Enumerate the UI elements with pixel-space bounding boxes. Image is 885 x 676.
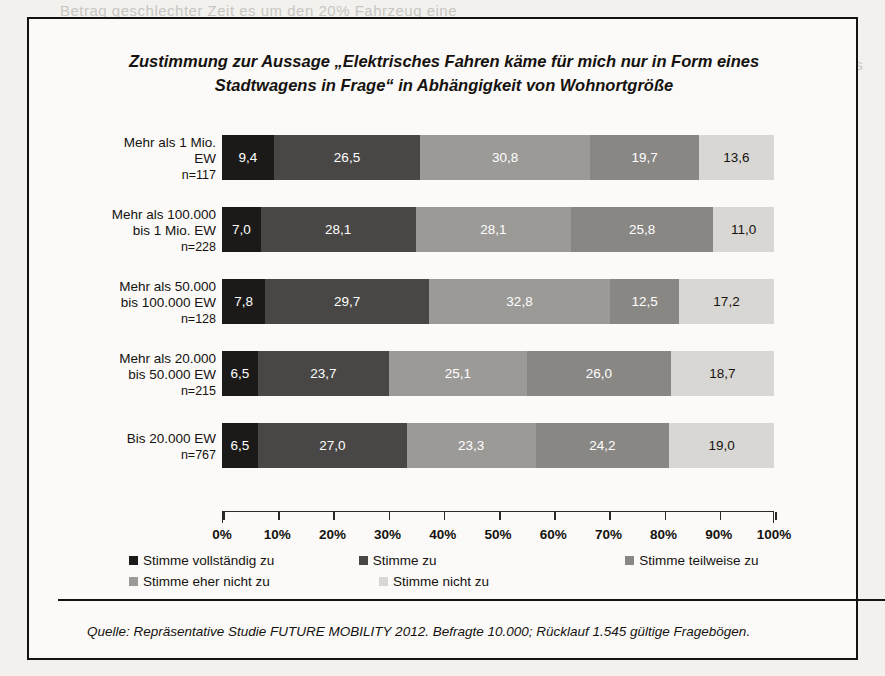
x-axis-tick <box>665 512 667 520</box>
stacked-bar[interactable]: 7,028,128,125,811,0 <box>222 207 774 252</box>
bar-segment[interactable]: 6,5 <box>222 423 258 468</box>
legend-item[interactable]: Stimme eher nicht zu <box>129 574 379 589</box>
bar-segment[interactable]: 26,5 <box>274 135 420 180</box>
bar-segment[interactable]: 28,1 <box>416 207 571 252</box>
chart-title: Zustimmung zur Aussage „Elektrisches Fah… <box>89 49 799 97</box>
bar-segment[interactable]: 23,7 <box>258 351 389 396</box>
stacked-bar[interactable]: 9,426,530,819,713,6 <box>222 135 774 180</box>
x-axis-tick-label: 70% <box>578 527 638 542</box>
bar-segment[interactable]: 6,5 <box>222 351 258 396</box>
category-label-line: EW <box>194 151 216 166</box>
bar-segment[interactable]: 27,0 <box>258 423 407 468</box>
chart-row: Mehr als 1 Mio.EWn=1179,426,530,819,713,… <box>222 135 774 180</box>
bar-segment[interactable]: 7,8 <box>222 279 265 324</box>
legend-row-2: Stimme eher nicht zu Stimme nicht zu <box>129 571 809 592</box>
legend-swatch-icon <box>129 577 138 586</box>
x-axis-tick-label: 10% <box>247 527 307 542</box>
x-axis-tick-label: 30% <box>358 527 418 542</box>
category-label: Mehr als 20.000bis 50.000 EWn=215 <box>41 351 216 399</box>
category-sample-size: n=215 <box>41 383 216 399</box>
bar-segment[interactable]: 7,0 <box>222 207 261 252</box>
x-axis-tick-label: 40% <box>413 527 473 542</box>
x-axis-tick-label: 20% <box>302 527 362 542</box>
x-axis-tick-label: 0% <box>192 527 252 542</box>
x-axis-tick-label: 60% <box>523 527 583 542</box>
category-label-line: bis 100.000 EW <box>121 295 216 310</box>
x-axis-tick-label: 50% <box>468 527 528 542</box>
legend-swatch-icon <box>379 577 388 586</box>
x-axis-tick-label: 90% <box>689 527 749 542</box>
x-axis-tick <box>775 512 777 520</box>
bar-segment[interactable]: 12,5 <box>610 279 679 324</box>
category-sample-size: n=128 <box>41 311 216 327</box>
category-label-line: bis 50.000 EW <box>128 367 216 382</box>
bar-segment[interactable]: 28,1 <box>261 207 416 252</box>
x-axis-tick <box>223 512 225 520</box>
bar-segment[interactable]: 13,6 <box>699 135 774 180</box>
bar-segment[interactable]: 32,8 <box>429 279 610 324</box>
category-label-line: Mehr als 1 Mio. <box>124 135 216 150</box>
bar-segment[interactable]: 23,3 <box>407 423 536 468</box>
legend-item[interactable]: Stimme vollständig zu <box>129 553 359 568</box>
x-axis <box>222 511 774 523</box>
bar-segment[interactable]: 19,0 <box>669 423 774 468</box>
category-sample-size: n=767 <box>41 447 216 463</box>
plot-area: Mehr als 1 Mio.EWn=1179,426,530,819,713,… <box>222 135 774 507</box>
source-note: Quelle: Repräsentative Studie FUTURE MOB… <box>87 624 877 639</box>
legend-label: Stimme teilweise zu <box>639 553 758 568</box>
source-divider <box>58 599 885 601</box>
chart-row: Mehr als 100.000bis 1 Mio. EWn=2287,028,… <box>222 207 774 252</box>
bar-segment[interactable]: 26,0 <box>527 351 671 396</box>
stacked-bar[interactable]: 6,523,725,126,018,7 <box>222 351 774 396</box>
category-label: Mehr als 100.000bis 1 Mio. EWn=228 <box>41 207 216 255</box>
legend-label: Stimme nicht zu <box>393 574 489 589</box>
bar-segment[interactable]: 29,7 <box>265 279 429 324</box>
category-sample-size: n=228 <box>41 239 216 255</box>
x-axis-tick <box>609 512 611 520</box>
category-label-line: Mehr als 100.000 <box>112 207 216 222</box>
bar-segment[interactable]: 11,0 <box>713 207 774 252</box>
category-label: Bis 20.000 EWn=767 <box>41 431 216 463</box>
category-label-line: Mehr als 50.000 <box>119 279 216 294</box>
bar-segment[interactable]: 19,7 <box>590 135 699 180</box>
bar-segment[interactable]: 25,8 <box>571 207 713 252</box>
legend-label: Stimme eher nicht zu <box>143 574 270 589</box>
legend-item[interactable]: Stimme teilweise zu <box>625 553 809 568</box>
legend-swatch-icon <box>129 556 138 565</box>
x-axis-tick <box>444 512 446 520</box>
chart-row: Bis 20.000 EWn=7676,527,023,324,219,0 <box>222 423 774 468</box>
legend-item[interactable]: Stimme zu <box>359 553 625 568</box>
category-label-line: bis 1 Mio. EW <box>133 223 216 238</box>
bar-segment[interactable]: 9,4 <box>222 135 274 180</box>
category-label: Mehr als 50.000bis 100.000 EWn=128 <box>41 279 216 327</box>
legend-swatch-icon <box>359 556 368 565</box>
chart-row: Mehr als 50.000bis 100.000 EWn=1287,829,… <box>222 279 774 324</box>
x-axis-tick-label: 80% <box>634 527 694 542</box>
bar-segment[interactable]: 24,2 <box>536 423 670 468</box>
legend-item[interactable]: Stimme nicht zu <box>379 574 669 589</box>
legend-row-1: Stimme vollständig zu Stimme zu Stimme t… <box>129 550 809 571</box>
x-axis-tick-label: 100% <box>744 527 804 542</box>
chart-legend: Stimme vollständig zu Stimme zu Stimme t… <box>129 550 809 592</box>
chart-row: Mehr als 20.000bis 50.000 EWn=2156,523,7… <box>222 351 774 396</box>
bar-segment[interactable]: 25,1 <box>389 351 528 396</box>
x-axis-tick <box>554 512 556 520</box>
x-axis-tick <box>499 512 501 520</box>
x-axis-tick <box>278 512 280 520</box>
stacked-bar[interactable]: 6,527,023,324,219,0 <box>222 423 774 468</box>
category-sample-size: n=117 <box>41 167 216 183</box>
x-axis-tick <box>389 512 391 520</box>
category-label-line: Mehr als 20.000 <box>119 351 216 366</box>
bar-segment[interactable]: 17,2 <box>679 279 774 324</box>
legend-label: Stimme vollständig zu <box>143 553 274 568</box>
category-label-line: Bis 20.000 EW <box>127 431 216 446</box>
x-axis-tick <box>333 512 335 520</box>
chart-frame: Zustimmung zur Aussage „Elektrisches Fah… <box>27 17 858 660</box>
stacked-bar[interactable]: 7,829,732,812,517,2 <box>222 279 774 324</box>
x-axis-tick <box>720 512 722 520</box>
bar-segment[interactable]: 30,8 <box>420 135 590 180</box>
legend-label: Stimme zu <box>373 553 437 568</box>
category-label: Mehr als 1 Mio.EWn=117 <box>41 135 216 183</box>
legend-swatch-icon <box>625 556 634 565</box>
bar-segment[interactable]: 18,7 <box>671 351 774 396</box>
